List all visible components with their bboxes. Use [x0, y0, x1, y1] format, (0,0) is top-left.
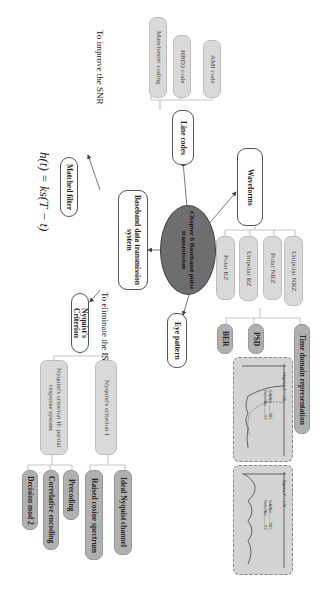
decision-mod2-label: Decision mod 2	[26, 476, 34, 525]
plot-legend-dashed: Dashed line —— RZ	[263, 390, 267, 420]
node-nyquist-criterion: Nyquist's Criterion	[71, 293, 89, 353]
line-codes-label: Line codes	[179, 121, 187, 155]
precoding-label: Precoding	[67, 479, 75, 511]
matched-filter-label: Matched filter	[65, 164, 73, 210]
ideal-nyquist-channel-label: Ideal Nyquist channel	[119, 477, 127, 547]
node-line-codes: Line codes	[172, 110, 194, 165]
node-waveforms: Waveforms	[237, 148, 263, 226]
psd-plot-bipolar: Bipolar (P = 1/2) Solid line —— NRZ Dash…	[233, 465, 293, 575]
polar-nrz-label: Polar NRZ	[269, 253, 277, 284]
plot-legend-solid: Solid line —— NRZ	[268, 500, 272, 529]
node-eye-pattern: Eye pattern	[167, 313, 187, 368]
eye-pattern-label: Eye pattern	[173, 322, 181, 360]
time-domain-label: Time domain representation	[298, 334, 306, 425]
plot-title: Unipolar (P = 1/2)	[282, 372, 287, 401]
node-polar-nrz: Polar NRZ	[263, 236, 282, 300]
waveforms-label: Waveforms	[246, 169, 254, 206]
manchester-coding-label: Manchester coding	[154, 31, 162, 84]
unipolar-nrz-label: Unipolar NRZ	[290, 251, 298, 292]
raised-cosine-label: Raised cosine spectrum	[90, 478, 98, 553]
plot-legend-solid: Solid line —— NRZ	[268, 390, 272, 419]
polar-rz-label: Polar RZ	[222, 255, 230, 280]
baseband-system-label: Baseband data transmission system	[125, 191, 142, 289]
node-raised-cosine: Raised cosine spectrum	[85, 470, 103, 560]
plot-title: Bipolar (P = 1/2)	[282, 480, 287, 507]
psd-label: PSD	[252, 332, 260, 346]
node-matched-filter: Matched filter	[60, 157, 78, 217]
psd-plot-unipolar: Unipolar (P = 1/2) Solid line —— NRZ Das…	[233, 357, 293, 462]
node-correlative-encoding: Correlative encoding	[43, 470, 59, 550]
node-nyquist-criterion-1: Nyquist's criterion I	[95, 360, 117, 455]
annotation-isi: To eliminate the ISI	[100, 292, 110, 364]
ber-label: BER	[221, 331, 229, 346]
node-decision-mod2: Decision mod 2	[22, 470, 38, 530]
nyquist-criterion-label: Nyquist's Criterion	[72, 294, 89, 352]
correlative-encoding-label: Correlative encoding	[47, 476, 55, 543]
node-psd: PSD	[248, 324, 264, 354]
node-unipolar-rz: Unipolar RZ	[239, 236, 258, 301]
ami-code-label: AMI code	[208, 55, 216, 84]
unipolar-rz-label: Unipolar RZ	[245, 251, 253, 287]
center-topic-label: Chapter 6 Baseband pulse transmission	[180, 206, 196, 294]
node-baseband-system: Baseband data transmission system	[118, 190, 148, 290]
node-ami-code: AMI code	[203, 40, 221, 98]
node-ideal-nyquist-channel: Ideal Nyquist channel	[114, 470, 132, 555]
plot-legend-dashed: Dashed line —— RZ	[263, 500, 267, 530]
nyquist-criterion-1-label: Nyquist's criterion I	[102, 380, 110, 436]
hdb3-code-label: HBD3 code	[178, 50, 186, 83]
node-manchester-coding: Manchester coding	[149, 17, 167, 98]
node-nyquist-criterion-2: Nyquist's criterion II: partial response…	[40, 360, 68, 455]
nyquist-criterion-2-label: Nyquist's criterion II: partial response…	[46, 361, 61, 454]
node-precoding: Precoding	[63, 470, 79, 520]
node-hdb3-code: HBD3 code	[173, 35, 191, 98]
node-ber: BER	[217, 324, 233, 354]
node-time-domain: Time domain representation	[294, 324, 310, 434]
center-topic: Chapter 6 Baseband pulse transmission	[160, 205, 216, 295]
annotation-snr: To improve the SNR	[95, 30, 105, 105]
node-unipolar-nrz: Unipolar NRZ	[284, 236, 303, 306]
node-polar-rz: Polar RZ	[216, 236, 235, 300]
matched-filter-formula: h(t) = ks(T − t)	[36, 152, 52, 231]
